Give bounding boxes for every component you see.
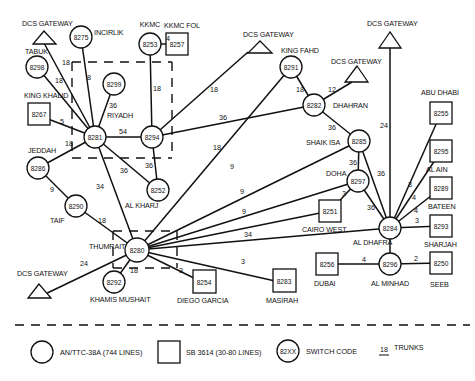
node-8299: 8299: [103, 73, 125, 95]
site-label: DUBAI: [314, 279, 336, 288]
trunk-count: 4: [414, 206, 418, 215]
node-8282: 8282 DHAHRAN: [303, 94, 368, 116]
switch-code: 8290: [69, 203, 84, 210]
site-label: SHAIK ISA: [306, 138, 341, 147]
trunk-count: 3: [408, 180, 412, 189]
trunk-count: 36: [120, 166, 128, 175]
trunk-count: 36: [377, 169, 385, 178]
trunk-count: 18: [213, 143, 221, 152]
site-label: DIEGO GARCIA: [177, 296, 229, 305]
triangle-icon: [345, 66, 368, 82]
switch-code: 8295: [434, 148, 449, 155]
triangle-icon: [33, 31, 56, 44]
site-label: AL DHAFRA: [353, 238, 392, 247]
site-label: MASIRAH: [266, 296, 298, 305]
node-8286: 8286 JEDDAH: [27, 146, 56, 179]
trunk-count: 9: [242, 207, 246, 216]
node-8275: 8275 INCIRLIK: [70, 26, 124, 48]
switch-code: 8298: [30, 64, 45, 71]
triangle-icon: [379, 32, 401, 48]
switch-code: 8256: [320, 261, 335, 268]
node-8289: 8289 BATEEN: [428, 177, 456, 211]
node-8250: 8250 SEEB: [430, 252, 452, 289]
switch-code: 8294: [145, 134, 160, 141]
dcs-gateway-dhahran: DCS GATEWAY: [331, 57, 382, 82]
site-label: DOHA: [326, 169, 347, 178]
site-label: SHARJAH: [424, 240, 457, 249]
trunk-count: 2: [414, 254, 418, 263]
switch-code: 8285: [352, 138, 367, 145]
legend-switch-code-symbol: 82XX: [280, 348, 297, 355]
site-label: JEDDAH: [28, 146, 56, 155]
site-label: KHAMIS MUSHAIT: [90, 295, 151, 304]
switch-code: 8250: [434, 260, 449, 267]
switch-code: 8289: [434, 185, 449, 192]
triangle-icon: [28, 284, 51, 298]
legend: AN/TTC-38A (744 LINES) SB 3614 (30-80 LI…: [31, 340, 424, 363]
site-label: KKMC FOL: [164, 21, 200, 30]
trunk-count: 36: [109, 101, 117, 110]
node-8256: 8256 DUBAI: [314, 253, 338, 288]
gateway-label: DCS GATEWAY: [22, 19, 73, 28]
legend-square-label: SB 3614 (30-80 LINES): [186, 348, 262, 357]
trunk-count: 9: [230, 162, 234, 171]
switch-code: 8299: [107, 81, 122, 88]
site-label: KKMC: [140, 20, 160, 29]
switch-code: 8284: [383, 225, 398, 232]
site-label: AL MINHAD: [371, 279, 409, 288]
site-label: SEEB: [430, 280, 449, 289]
site-label: AL AIN: [426, 165, 448, 174]
trunk-count: 3: [415, 216, 419, 225]
node-8295: 8295 AL AIN: [426, 140, 452, 174]
dcs-gateway-tabuk: DCS GATEWAY: [22, 19, 73, 44]
legend-trunks-example: 18: [380, 345, 388, 354]
trunk-count: 8: [87, 73, 91, 82]
trunk-count: 18: [210, 85, 218, 94]
dcs-gateway-thumrait: DCS GATEWAY: [17, 269, 68, 298]
node-8255: 8255 ABU DHABI: [421, 88, 459, 124]
riyadh-label: RIYADH: [107, 111, 133, 120]
trunk-count: 54: [119, 127, 127, 136]
trunk-count: 18: [62, 58, 70, 67]
gateway-label: DCS GATEWAY: [17, 269, 68, 278]
site-label: DHAHRAN: [333, 101, 368, 110]
switch-code: 8293: [434, 223, 449, 230]
trunk-count: 18: [130, 266, 138, 275]
site-label: AL KHARJ: [125, 201, 159, 210]
node-8254: 8254 DIEGO GARCIA: [177, 270, 229, 305]
node-8285: 8285 SHAIK ISA: [306, 130, 370, 152]
switch-code: 8282: [307, 102, 322, 109]
trunk-count: 36: [145, 161, 153, 170]
trunk-count: 12: [328, 85, 336, 94]
node-8251: 8251 CAIRO WEST: [302, 200, 347, 234]
trunk-count: 18: [65, 139, 73, 148]
switch-code: 8253: [143, 41, 158, 48]
trunk-count: 36: [349, 158, 357, 167]
legend-switch-code-label: SWITCH CODE: [306, 347, 357, 356]
trunk-count: 24: [80, 259, 88, 268]
trunk-count: 3: [241, 257, 245, 266]
switch-code: 8267: [32, 111, 47, 118]
trunk-count: 18: [153, 84, 161, 93]
trunk-count: 4: [412, 193, 416, 202]
trunk-count: 34: [96, 182, 104, 191]
trunk-count: 3: [179, 266, 183, 275]
switch-code: 8252: [151, 187, 166, 194]
node-8253: 8253 KKMC: [139, 20, 161, 55]
trunk-count: 36: [328, 123, 336, 132]
node-8284: 8284 AL DHAFRA: [353, 217, 401, 247]
node-8292: 8292 KHAMIS MUSHAIT: [90, 271, 151, 304]
site-label: THUMRAIT: [89, 242, 126, 251]
node-8298: 8298 TABUK: [25, 47, 48, 78]
legend-trunks-label: TRUNKS: [394, 343, 424, 352]
site-label: TABUK: [25, 47, 48, 56]
gateway-label: DCS GATEWAY: [331, 57, 382, 66]
switch-code: 8296: [383, 261, 398, 268]
node-8294: 8294: [141, 126, 163, 148]
site-label: BATEEN: [428, 202, 456, 211]
trunk-count: 18: [55, 76, 63, 85]
dcs-gateway-al-dhafra: DCS GATEWAY: [367, 19, 418, 48]
node-8293: 8293 SHARJAH: [424, 215, 457, 249]
site-label: TAIF: [50, 216, 65, 225]
trunk-count: 3: [342, 189, 346, 198]
